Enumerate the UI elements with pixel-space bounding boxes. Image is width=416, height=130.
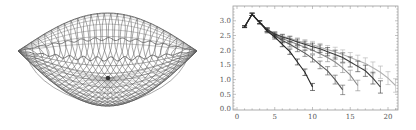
y-tick-label: 2.0 [220,47,231,55]
axes [233,6,398,110]
x-tick-label: 10 [308,113,317,121]
error-bar [355,80,360,91]
x-tick-label: 15 [346,113,355,121]
mesh-center-vertex [106,76,110,80]
series-1 [242,13,315,90]
error-bar [378,66,383,78]
decay-line-chart: 051015200.00.51.01.52.02.53.0 [208,0,416,130]
error-bar [386,72,391,85]
error-bar [295,46,300,52]
y-tick-label: 3.0 [220,17,231,25]
mesh-lines [18,13,197,106]
series-line [245,14,313,87]
error-bar [302,50,307,56]
x-tick-label: 0 [235,113,239,121]
error-bar [355,61,360,72]
y-tick-label: 1.5 [220,61,231,69]
lens-mesh-figure [0,0,210,130]
error-bar [363,65,368,76]
x-tick-label: 5 [273,113,277,121]
x-tick-label: 20 [384,113,393,121]
error-bar [340,63,345,72]
error-bar [340,85,345,94]
y-tick-label: 0.0 [220,105,231,113]
wireframe-mesh-panel [0,0,210,130]
error-bar [242,26,247,28]
error-bar [348,70,353,80]
error-bar [310,55,315,62]
plot-frame [233,6,398,110]
y-tick-label: 0.5 [220,91,231,99]
error-bar [318,61,323,69]
y-tick-label: 2.5 [220,32,231,40]
line-chart-panel: 051015200.00.51.01.52.02.53.0 [208,0,416,130]
y-tick-label: 1.0 [220,76,231,84]
error-bar [378,81,383,93]
error-bar [250,13,255,15]
